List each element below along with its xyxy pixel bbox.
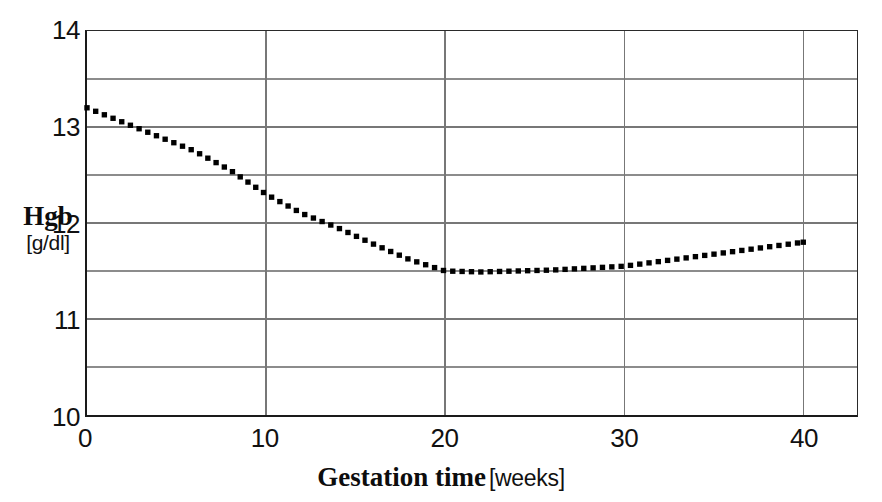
data-point-marker [776,243,781,248]
data-point-marker [674,256,679,261]
data-point-marker [459,269,464,274]
data-point-marker [136,126,141,131]
x-tick-label: 0 [78,423,92,454]
data-point-marker [180,144,185,149]
data-point-marker [269,194,274,199]
data-point-marker [786,242,791,247]
data-point-marker [534,268,539,273]
data-point-marker [238,174,243,179]
data-point-marker [84,105,89,110]
data-point-marker [277,199,282,204]
data-point-marker [337,226,342,231]
data-point-marker [162,137,167,142]
data-point-marker [197,151,202,156]
data-point-marker [469,269,474,274]
data-point-marker [302,212,307,217]
data-point-marker [450,269,455,274]
data-point-marker [600,265,605,270]
data-point-marker [581,266,586,271]
x-tick-label: 20 [431,423,459,454]
y-axis-title-text: Hgb [12,203,84,231]
data-point-marker [222,164,227,169]
data-point-marker [497,269,502,274]
data-point-marker [414,259,419,264]
data-point-marker [253,185,258,190]
x-tick-label: 40 [790,423,818,454]
data-line-hgb [84,105,806,275]
data-point-marker [205,156,210,161]
data-point-marker [525,268,530,273]
data-series-layer [87,31,857,415]
data-point-marker [693,254,698,259]
y-axis-unit-text: [g/dl] [12,232,84,253]
data-point-marker [478,269,483,274]
data-point-marker [656,259,661,264]
data-point-marker [285,203,290,208]
data-point-marker [739,248,744,253]
data-point-marker [637,261,642,266]
data-point-marker [711,251,716,256]
data-point-marker [397,252,402,257]
data-point-marker [189,147,194,152]
x-tick-label: 10 [251,423,279,454]
plot-area [85,30,858,417]
data-point-marker [721,250,726,255]
data-point-marker [311,215,316,220]
data-point-marker [516,268,521,273]
data-point-marker [628,263,633,268]
data-point-marker [93,109,98,114]
data-point-marker [702,253,707,258]
data-point-marker [245,179,250,184]
data-point-marker [488,269,493,274]
data-point-marker [609,264,614,269]
x-axis-title: Gestation time[weeks] [0,462,882,493]
data-point-marker [319,219,324,224]
data-point-marker [119,119,124,124]
x-axis-title-text: Gestation time [317,462,486,492]
data-point-marker [423,262,428,267]
y-tick-label: 13 [52,111,80,142]
data-point-marker [145,130,150,135]
data-point-marker [213,160,218,165]
data-point-marker [154,133,159,138]
data-point-marker [646,260,651,265]
data-point-marker [110,116,115,121]
data-point-marker [432,265,437,270]
y-tick-label: 10 [52,402,80,433]
data-point-marker [748,247,753,252]
data-point-marker [294,208,299,213]
data-point-marker [590,265,595,270]
data-point-marker [354,234,359,239]
data-point-marker [441,268,446,273]
data-point-marker [683,255,688,260]
data-point-marker [618,264,623,269]
data-point-marker [767,244,772,249]
y-tick-label: 11 [54,305,80,336]
data-point-marker [328,222,333,227]
data-point-marker [230,169,235,174]
data-point-marker [405,256,410,261]
data-point-marker [730,249,735,254]
chart-figure: 1011121314 Hgb [g/dl] 010203040 Gestatio… [0,0,882,502]
data-point-marker [261,190,266,195]
data-point-marker [544,268,549,273]
data-point-marker [562,267,567,272]
data-point-marker [795,240,800,245]
y-tick-label: 14 [52,15,80,46]
x-axis-unit-text: [weeks] [489,465,565,491]
data-point-marker [102,112,107,117]
y-axis-title: Hgb [g/dl] [12,203,84,253]
data-point-marker [758,245,763,250]
data-point-marker [379,245,384,250]
data-point-marker [371,241,376,246]
data-point-marker [362,238,367,243]
x-tick-label: 30 [610,423,638,454]
data-point-marker [388,249,393,254]
x-axis-tick-labels: 010203040 [85,423,858,457]
data-point-marker [171,140,176,145]
data-point-marker [506,269,511,274]
data-point-marker [801,240,806,245]
data-point-marker [665,258,670,263]
data-point-marker [553,267,558,272]
data-point-marker [128,123,133,128]
